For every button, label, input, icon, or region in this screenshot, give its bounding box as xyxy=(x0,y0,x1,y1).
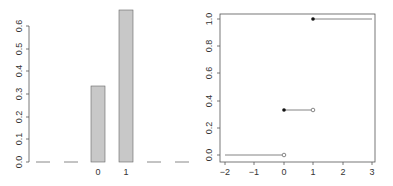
y-tick-label: 0.8 xyxy=(204,40,214,53)
y-tick-label: 0.3 xyxy=(14,88,24,101)
y-tick-label: 0.2 xyxy=(204,122,214,135)
y-tick-label: 0.4 xyxy=(14,65,24,78)
y-tick-label: 0.1 xyxy=(14,133,24,146)
pmf-bar-chart: 0.0 0.1 0.2 0.3 0.4 0.5 0.6 0 1 xyxy=(14,10,189,177)
step-segments xyxy=(225,17,372,157)
closed-point xyxy=(282,108,286,112)
y-tick-label: 0.2 xyxy=(14,111,24,124)
x-label: 1 xyxy=(123,167,128,177)
y-ticks xyxy=(26,26,29,162)
cdf-step-chart: 0.0 0.2 0.4 0.6 0.8 1.0 −2 −1 0 1 2 3 xyxy=(204,13,375,177)
x-tick-label: 1 xyxy=(310,167,315,177)
y-tick-label: 0.0 xyxy=(14,156,24,169)
y-tick-label: 0.0 xyxy=(204,149,214,162)
y-tick-label: 0.6 xyxy=(204,67,214,80)
plot-box xyxy=(220,14,375,162)
open-point xyxy=(311,108,315,112)
y-tick-label: 0.5 xyxy=(14,43,24,56)
bar-0 xyxy=(91,86,105,162)
x-ticks xyxy=(225,162,372,165)
y-tick-labels: 0.0 0.1 0.2 0.3 0.4 0.5 0.6 xyxy=(14,20,24,169)
x-tick-label: 0 xyxy=(281,167,286,177)
x-labels: 0 1 xyxy=(95,167,128,177)
x-tick-labels: −2 −1 0 1 2 3 xyxy=(220,167,375,177)
x-tick-label: 3 xyxy=(369,167,374,177)
figure: 0.0 0.1 0.2 0.3 0.4 0.5 0.6 0 1 xyxy=(0,0,393,186)
x-tick-label: −1 xyxy=(249,167,259,177)
x-tick-label: 2 xyxy=(340,167,345,177)
y-tick-labels: 0.0 0.2 0.4 0.6 0.8 1.0 xyxy=(204,13,214,162)
y-tick-label: 0.4 xyxy=(204,95,214,108)
y-tick-label: 0.6 xyxy=(14,20,24,33)
bars xyxy=(36,10,189,162)
y-ticks xyxy=(217,19,220,155)
x-label: 0 xyxy=(95,167,100,177)
open-point xyxy=(282,153,286,157)
bar-1 xyxy=(119,10,133,162)
closed-point xyxy=(311,17,315,21)
y-tick-label: 1.0 xyxy=(204,13,214,26)
x-tick-label: −2 xyxy=(220,167,230,177)
